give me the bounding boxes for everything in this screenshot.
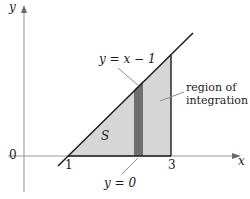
lower-bound-label: y = 0 — [104, 177, 136, 190]
y-axis-arrowhead — [21, 5, 27, 13]
leader-line-equation — [118, 68, 139, 86]
x-tick-label-3: 3 — [168, 159, 176, 173]
x-tick-label-1: 1 — [65, 159, 73, 173]
line-equation-label: y = x − 1 — [99, 53, 156, 66]
region-of-integration-line-1: region of — [186, 82, 248, 95]
x-axis-label: x — [238, 155, 245, 168]
figure-container: y x 0 1 3 S y = x − 1 y = 0 region of in… — [0, 0, 250, 199]
region-of-integration-line-2: integration — [186, 95, 248, 108]
region-s-label: S — [101, 130, 109, 143]
region-of-integration-label: region of integration — [186, 82, 248, 107]
origin-label: 0 — [9, 149, 17, 163]
leader-line-y-zero — [122, 158, 138, 174]
integration-strip — [134, 81, 143, 156]
y-axis-label: y — [9, 1, 16, 14]
